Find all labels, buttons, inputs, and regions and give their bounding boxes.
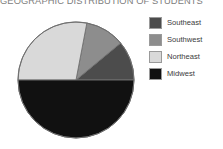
- legend-swatch-midwest: [149, 68, 162, 80]
- legend-label-southeast: Southeast: [167, 19, 201, 27]
- chart-legend: Southeast Southwest Northeast Midwest: [149, 14, 223, 86]
- pie-slice-midwest[interactable]: [18, 80, 134, 138]
- legend-swatch-southeast: [149, 17, 162, 29]
- pie-slice-northeast[interactable]: [18, 22, 87, 80]
- legend-label-northeast: Northeast: [167, 53, 200, 61]
- legend-label-southwest: Southwest: [167, 36, 202, 44]
- legend-swatch-southwest: [149, 34, 162, 46]
- legend-item-midwest[interactable]: Midwest: [149, 65, 223, 82]
- pie-slice-group: [18, 22, 134, 138]
- pie-chart-plot-area: [17, 21, 135, 139]
- legend-item-northeast[interactable]: Northeast: [149, 48, 223, 65]
- legend-item-southeast[interactable]: Southeast: [149, 14, 223, 31]
- legend-item-southwest[interactable]: Southwest: [149, 31, 223, 48]
- legend-label-midwest: Midwest: [167, 70, 195, 78]
- legend-swatch-northeast: [149, 51, 162, 63]
- chart-title: GEOGRAPHIC DISTRIBUTION OF STUDENTS: [0, 0, 223, 8]
- pie-chart-figure: GEOGRAPHIC DISTRIBUTION OF STUDENTS Sout…: [0, 0, 223, 149]
- pie-chart-svg: [17, 21, 135, 139]
